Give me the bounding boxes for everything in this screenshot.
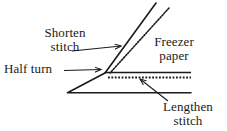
- label-lengthen-stitch-line2: stitch: [152, 114, 224, 128]
- label-freezer-paper: Freezer paper: [146, 35, 202, 62]
- label-shorten-stitch-line2: stitch: [36, 40, 94, 54]
- label-lengthen-stitch-line1: Lengthen: [163, 99, 213, 114]
- label-shorten-stitch-line1: Shorten: [44, 25, 85, 40]
- label-shorten-stitch: Shorten stitch: [36, 26, 94, 53]
- label-half-turn: Half turn: [4, 62, 52, 76]
- label-freezer-paper-line1: Freezer: [154, 34, 194, 49]
- fabric-edge-lower: [68, 73, 192, 93]
- freezer-paper-diagram: Shorten stitch Half turn Freezer paper L…: [0, 0, 227, 131]
- label-half-turn-line1: Half turn: [4, 61, 52, 76]
- pointer-half-turn: [64, 70, 101, 71]
- label-lengthen-stitch: Lengthen stitch: [152, 100, 224, 127]
- label-freezer-paper-line2: paper: [146, 49, 202, 63]
- pointer-lengthen-stitch: [140, 79, 168, 101]
